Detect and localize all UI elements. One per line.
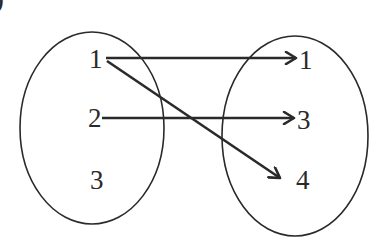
arrow-1-to-4 [107, 61, 280, 178]
corner-parenthesis: ) [0, 0, 4, 15]
domain-element-1: 1 [89, 44, 103, 74]
mapping-diagram: ) 1 2 3 1 3 4 [0, 0, 382, 247]
domain-element-2: 2 [88, 103, 102, 133]
codomain-element-1: 1 [299, 45, 313, 75]
domain-element-3: 3 [90, 165, 104, 195]
codomain-set-ellipse [222, 36, 368, 236]
codomain-element-4: 4 [296, 165, 310, 195]
codomain-element-3: 3 [297, 105, 311, 135]
